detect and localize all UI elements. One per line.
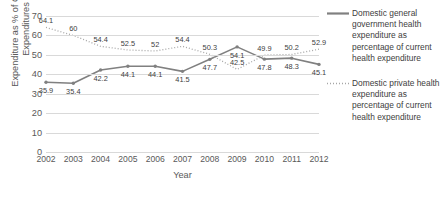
data-label: 47.8 <box>257 63 271 72</box>
legend-item[interactable]: Domestic private health expenditure as p… <box>327 78 445 123</box>
data-label: 48.3 <box>284 62 298 71</box>
data-label: 45.1 <box>312 68 326 77</box>
gridline: 30 <box>46 94 319 95</box>
data-point <box>154 65 157 68</box>
y-axis-tick-label: 50 <box>32 50 42 60</box>
legend-item-label: Domestic general government health expen… <box>352 8 445 64</box>
series-line <box>46 27 319 69</box>
x-axis-tick-label: 2004 <box>91 154 110 164</box>
data-label: 44.1 <box>121 70 135 79</box>
x-axis: 2002200320042005200620072008200920102011… <box>46 152 319 166</box>
data-point <box>44 81 47 84</box>
data-label: 47.7 <box>203 63 217 72</box>
dotted-line-icon <box>327 78 349 89</box>
data-label: 41.5 <box>175 75 189 84</box>
y-axis-tick-label: 20 <box>32 108 42 118</box>
data-point <box>208 58 211 61</box>
data-label: 42.5 <box>230 58 244 67</box>
solid-line-icon <box>327 8 349 19</box>
data-point <box>317 63 320 66</box>
data-label: 54.4 <box>93 35 107 44</box>
x-axis-tick-label: 2006 <box>146 154 165 164</box>
data-label: 44.1 <box>148 70 162 79</box>
data-label: 50.3 <box>203 43 217 52</box>
y-axis-tick-label: 10 <box>32 128 42 138</box>
data-label: 49.9 <box>257 44 271 53</box>
gridline: 10 <box>46 133 319 134</box>
data-point <box>263 57 266 60</box>
data-label: 60 <box>69 24 77 33</box>
data-point <box>181 70 184 73</box>
data-point <box>99 68 102 71</box>
legend-item-label: Domestic private health expenditure as p… <box>352 78 445 123</box>
x-axis-tick-label: 2009 <box>228 154 247 164</box>
y-axis-tick-label: 40 <box>32 69 42 79</box>
data-point <box>126 65 129 68</box>
data-point <box>290 56 293 59</box>
chart-figure: Expenditure as % of Current Expenditures… <box>0 0 445 200</box>
x-axis-title: Year <box>46 170 319 180</box>
data-label: 42.2 <box>93 74 107 83</box>
data-label: 54.4 <box>175 35 189 44</box>
plot-area: 70605040302010035.935.442.244.144.141.54… <box>46 16 319 152</box>
y-axis-title-line2: Expenditures <box>21 0 33 87</box>
x-axis-tick-label: 2007 <box>173 154 192 164</box>
data-label: 52.5 <box>121 39 135 48</box>
x-axis-tick-label: 2011 <box>282 154 300 164</box>
x-axis-tick-label: 2008 <box>200 154 219 164</box>
y-axis-tick-label: 60 <box>32 30 42 40</box>
gridline: 20 <box>46 113 319 114</box>
data-label: 64.1 <box>39 16 53 25</box>
gridline: 50 <box>46 55 319 56</box>
data-point <box>72 82 75 85</box>
data-label: 35.4 <box>66 87 80 96</box>
x-axis-tick-label: 2003 <box>64 154 83 164</box>
data-label: 52.9 <box>312 38 326 47</box>
chart-legend: Domestic general government health expen… <box>327 8 445 137</box>
x-axis-tick-label: 2005 <box>118 154 137 164</box>
gridline: 70 <box>46 16 319 17</box>
data-label: 35.9 <box>39 86 53 95</box>
y-axis-title-line1: Expenditure as % of Current <box>10 0 22 87</box>
x-axis-tick-label: 2010 <box>255 154 274 164</box>
x-axis-tick-label: 2012 <box>309 154 328 164</box>
x-axis-tick-label: 2002 <box>36 154 55 164</box>
data-label: 52 <box>151 39 159 48</box>
data-point <box>235 45 238 48</box>
legend-item[interactable]: Domestic general government health expen… <box>327 8 445 64</box>
data-label: 50.2 <box>284 43 298 52</box>
